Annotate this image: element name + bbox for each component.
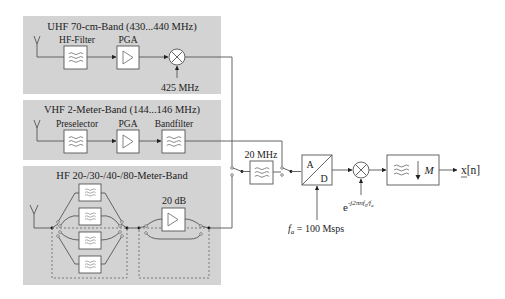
common-filter-label: 20 MHz: [244, 149, 278, 160]
vhf-preselector-block: [64, 130, 87, 153]
uhf-mixer: [169, 49, 185, 65]
vhf-band-title: VHF 2-Meter-Band (144...146 MHz): [44, 104, 201, 116]
uhf-lo-label: 425 MHz: [161, 82, 200, 93]
hf-amp-gain-label: 20 dB: [162, 195, 187, 206]
hf-filter-80m: [79, 256, 101, 273]
vhf-bandfilter-block: [162, 130, 185, 153]
hf-filter-40m: [79, 232, 101, 249]
uhf-hf-filter-label: HF-Filter: [59, 35, 96, 45]
uhf-hf-filter-block: [64, 46, 87, 69]
output-signal-label: x[n]: [461, 164, 480, 176]
hf-band-title: HF 20-/30-/40-/80-Meter-Band: [56, 170, 188, 181]
vhf-preselector-label: Preselector: [56, 119, 99, 129]
digital-mixer: [353, 162, 369, 178]
nco-label: e-j2πnf0/fa: [343, 199, 374, 213]
adc-digital-label: D: [320, 173, 327, 184]
hf-amp-block: [162, 208, 185, 231]
sdr-block-diagram: UHF 70-cm-Band (430...440 MHz) HF-Filter…: [0, 0, 505, 299]
adc-block: A D: [302, 155, 332, 185]
hf-filter-20m: [79, 184, 101, 201]
vhf-pga-block: [117, 130, 139, 153]
hf-band-group: HF 20-/30-/40-/80-Meter-Band: [23, 166, 221, 285]
uhf-pga-block: [117, 46, 139, 69]
vhf-pga-label: PGA: [118, 119, 137, 129]
decimation-factor-label: M: [423, 164, 434, 176]
sample-rate-label: fa = 100 Msps: [288, 223, 344, 236]
vhf-bandfilter-label: Bandfilter: [155, 119, 194, 129]
adc-analog-label: A: [306, 159, 314, 170]
common-20mhz-filter-block: [250, 161, 273, 184]
input-selector-switch[interactable]: [231, 167, 244, 177]
decimation-filter-block: M: [387, 155, 439, 185]
uhf-band-group: UHF 70-cm-Band (430...440 MHz) HF-Filter…: [23, 16, 221, 94]
hf-band-box: [23, 166, 221, 285]
vhf-band-group: VHF 2-Meter-Band (144...146 MHz) Presele…: [23, 100, 221, 160]
uhf-band-title: UHF 70-cm-Band (430...440 MHz): [47, 21, 197, 33]
uhf-pga-label: PGA: [118, 35, 137, 45]
filter-bypass-switch[interactable]: [273, 160, 292, 176]
hf-filter-30m: [79, 208, 101, 225]
